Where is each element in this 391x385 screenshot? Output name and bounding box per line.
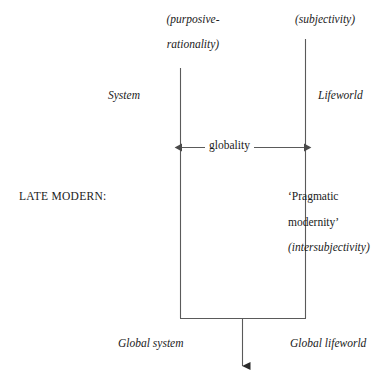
label-global-system: Global system <box>118 337 183 350</box>
label-subjectivity: (subjectivity) <box>270 13 380 26</box>
label-system: System <box>108 89 140 102</box>
label-pragmatic-modernity-line1: ‘Pragmatic <box>288 190 338 203</box>
diagram-canvas: (purposive- rationality) (subjectivity) … <box>0 0 391 385</box>
label-purposive-rationality-line1: (purposive- <box>148 13 238 26</box>
label-global-lifeworld: Global lifeworld <box>290 337 366 350</box>
label-globality: globality <box>205 139 254 152</box>
label-pragmatic-modernity-line2: modernity’ <box>288 216 339 229</box>
label-purposive-rationality-line2: rationality) <box>148 38 238 51</box>
label-lifeworld: Lifeworld <box>318 89 363 102</box>
label-late-modern: LATE MODERN: <box>19 190 107 203</box>
label-intersubjectivity: (intersubjectivity) <box>288 241 370 254</box>
